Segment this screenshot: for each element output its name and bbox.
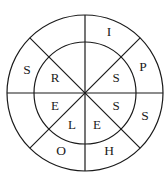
- inner-letter-bottom-right: E: [93, 117, 101, 132]
- inner-letter-left-upper: R: [51, 70, 60, 85]
- outer-letter-top-right: I: [107, 24, 112, 39]
- outer-letter-right-upper: P: [139, 59, 147, 74]
- word-wheel-svg: I P S H O S S S E L E R: [0, 0, 167, 178]
- outer-letter-bottom-right: H: [104, 143, 114, 158]
- inner-letter-left-lower: E: [51, 98, 59, 113]
- inner-letter-right-upper: S: [112, 70, 119, 85]
- inner-letter-right-lower: S: [112, 98, 119, 113]
- inner-letter-bottom-left: L: [68, 117, 76, 132]
- outer-letter-right-lower: S: [141, 108, 149, 123]
- outer-letter-bottom-left: O: [56, 143, 66, 158]
- word-wheel-figure: I P S H O S S S E L E R: [0, 0, 167, 178]
- outer-letter-left-upper: S: [23, 62, 31, 77]
